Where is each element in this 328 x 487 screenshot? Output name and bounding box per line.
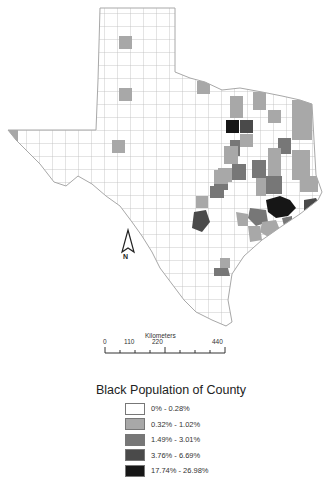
- legend-label: 0.32% - 1.02%: [151, 420, 200, 429]
- legend-item: 1.49% - 3.01%: [125, 432, 209, 448]
- texas-county-map: [0, 0, 328, 340]
- legend-label: 1.49% - 3.01%: [151, 435, 200, 444]
- legend-label: 17.74% - 26.98%: [151, 466, 209, 475]
- legend-item: 0.32% - 1.02%: [125, 417, 209, 433]
- legend-swatch: [125, 465, 145, 477]
- legend-swatch: [125, 403, 145, 415]
- legend-item: 3.76% - 6.69%: [125, 448, 209, 464]
- legend-label: 0% - 0.28%: [151, 404, 190, 413]
- scale-bar: [100, 333, 240, 363]
- legend: 0% - 0.28% 0.32% - 1.02% 1.49% - 3.01% 3…: [125, 401, 209, 479]
- legend-label: 3.76% - 6.69%: [151, 451, 200, 460]
- legend-item: 0% - 0.28%: [125, 401, 209, 417]
- legend-swatch: [125, 434, 145, 446]
- legend-swatch: [125, 449, 145, 461]
- legend-item: 17.74% - 26.98%: [125, 463, 209, 479]
- legend-swatch: [125, 418, 145, 430]
- north-label: N: [123, 253, 128, 260]
- legend-title: Black Population of County: [96, 383, 246, 397]
